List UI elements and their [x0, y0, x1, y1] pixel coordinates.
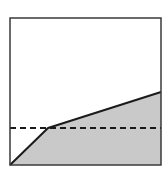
diagram-canvas [0, 0, 168, 173]
